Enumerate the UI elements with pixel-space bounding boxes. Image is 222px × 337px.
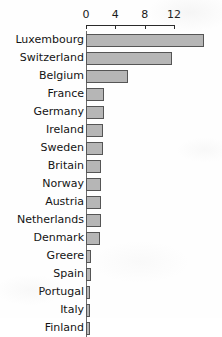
bar-row: Italy	[0, 301, 222, 319]
category-label: Luxembourg	[15, 33, 84, 47]
category-label: Britain	[48, 159, 84, 173]
bar	[86, 142, 103, 155]
x-axis-tick-label: 12	[167, 8, 181, 21]
bar	[86, 214, 101, 227]
x-axis-tick-0	[86, 25, 87, 29]
bar-row: Portugal	[0, 283, 222, 301]
bar	[86, 88, 104, 101]
bar-row: Germany	[0, 103, 222, 121]
bar	[86, 196, 101, 209]
bar-row: Britain	[0, 157, 222, 175]
x-axis-tick-label: 4	[112, 8, 119, 21]
bar	[86, 52, 172, 65]
bar-row: France	[0, 85, 222, 103]
bar	[86, 160, 101, 173]
bar	[86, 34, 204, 47]
bar-row: Netherlands	[0, 211, 222, 229]
bar-row: Denmark	[0, 229, 222, 247]
bar	[86, 106, 104, 119]
x-axis-tick-8	[145, 25, 146, 29]
category-label: Denmark	[33, 231, 84, 245]
bar-row: Spain	[0, 265, 222, 283]
bar-rows: LuxembourgSwitzerlandBelgiumFranceGerman…	[0, 31, 222, 337]
bar	[86, 322, 90, 335]
x-axis-tick-12	[174, 25, 175, 29]
category-label: Finland	[45, 321, 84, 335]
bar	[86, 124, 103, 137]
x-axis: 04812	[0, 8, 222, 32]
category-label: Portugal	[38, 285, 84, 299]
bar	[86, 178, 101, 191]
x-axis-tick-label: 8	[141, 8, 148, 21]
bar-row: Switzerland	[0, 49, 222, 67]
x-axis-tick-4	[115, 25, 116, 29]
bar-row: Belgium	[0, 67, 222, 85]
x-axis-tick-label: 0	[83, 8, 90, 21]
bar-row: Ireland	[0, 121, 222, 139]
category-label: Belgium	[39, 69, 84, 83]
category-label: Ireland	[46, 123, 84, 137]
category-label: Netherlands	[17, 213, 84, 227]
category-label: Norway	[42, 177, 84, 191]
category-label: Germany	[33, 105, 84, 119]
category-label: Sweden	[41, 141, 84, 155]
x-axis-line	[86, 25, 174, 26]
bar	[86, 304, 90, 317]
bar-row: Norway	[0, 175, 222, 193]
bar-row: Sweden	[0, 139, 222, 157]
category-label: Spain	[53, 267, 84, 281]
category-label: Greere	[47, 249, 84, 263]
bar	[86, 70, 128, 83]
category-label: Italy	[60, 303, 84, 317]
bar-row: Finland	[0, 319, 222, 337]
category-label: Switzerland	[20, 51, 84, 65]
category-label: Austria	[45, 195, 84, 209]
bar	[86, 268, 91, 281]
bar-row: Austria	[0, 193, 222, 211]
category-label: France	[47, 87, 84, 101]
bar	[86, 250, 91, 263]
bar	[86, 286, 90, 299]
bar-row: Luxembourg	[0, 31, 222, 49]
bar	[86, 232, 100, 245]
bar-row: Greere	[0, 247, 222, 265]
